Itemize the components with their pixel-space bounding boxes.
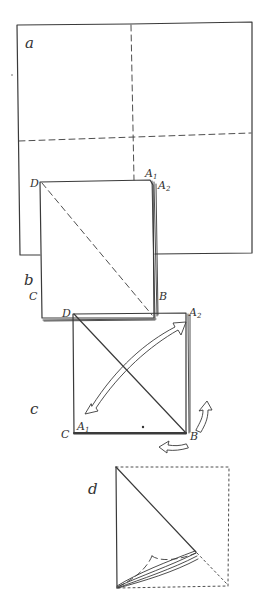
corner-D-b: D [29, 177, 39, 190]
fold-line-horizontal [19, 133, 251, 141]
corner-D-c: D [61, 307, 71, 320]
center-dot [142, 426, 144, 428]
paper-folding-diagram: a b D A1 A2 C B c D A2 A1 C B [0, 0, 264, 612]
fold-line-vertical [131, 25, 134, 180]
corner-A2-c: A2 [188, 306, 202, 320]
panel-a: a [17, 22, 252, 255]
stray-dot [11, 74, 13, 76]
panel-b: b D A1 A2 C B [24, 167, 171, 321]
curved-double-arrow [85, 322, 186, 414]
rotate-arrow-left [159, 441, 188, 453]
diagonal-line-c [74, 314, 186, 433]
cone-left-edge [116, 467, 117, 588]
corner-B-c: B [189, 430, 198, 443]
sheet-a-outline [17, 22, 252, 255]
diagonal-fold-line-b [42, 183, 152, 315]
corner-C-c: C [61, 428, 70, 441]
cone-top-edge [116, 467, 196, 552]
label-c: c [30, 400, 39, 418]
square-b-layers-bottom [43, 319, 156, 321]
panel-c: c D A2 A1 C B [30, 306, 212, 453]
corner-A2-b: A2 [157, 179, 171, 193]
label-d: d [88, 480, 98, 498]
dotted-fold-diagonal [197, 553, 227, 584]
corner-A1-c: A1 [76, 420, 89, 434]
label-b: b [24, 271, 34, 289]
panel-d: d [88, 467, 229, 588]
square-c-layer-right [188, 314, 190, 433]
corner-B-b: B [158, 290, 167, 303]
label-a: a [25, 34, 34, 52]
rotate-arrow-up [196, 401, 212, 432]
corner-C-b: C [29, 290, 38, 303]
corner-A1-b: A1 [144, 167, 157, 181]
